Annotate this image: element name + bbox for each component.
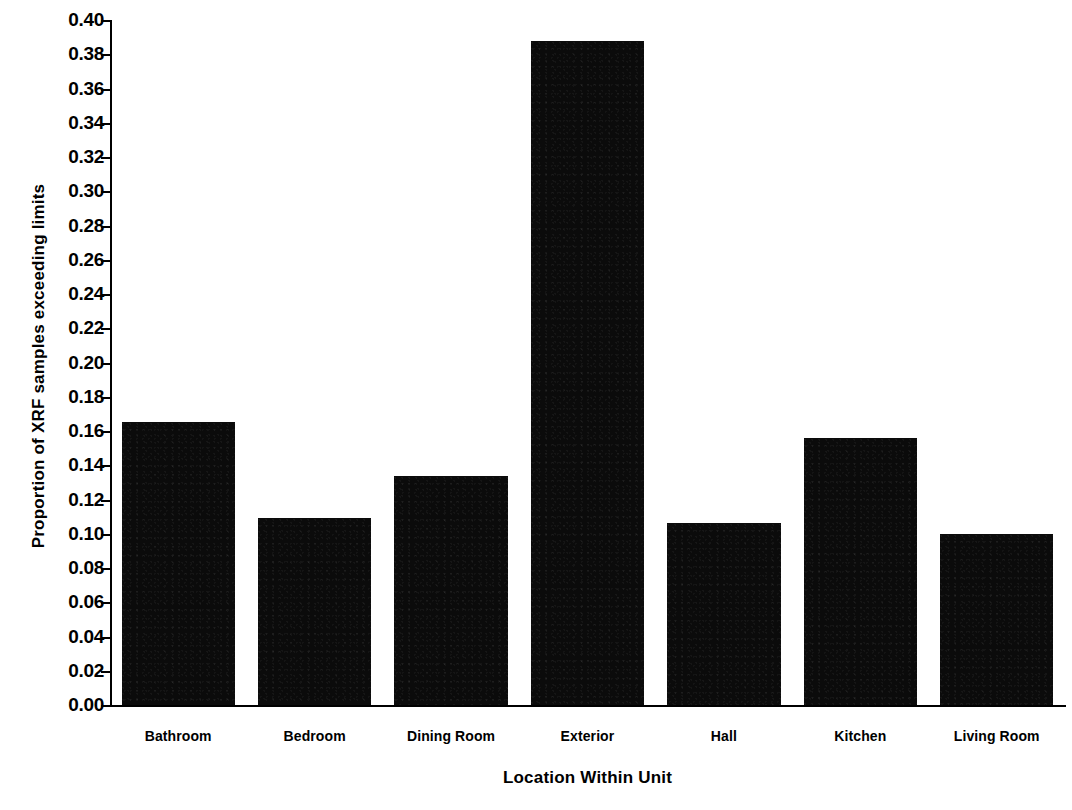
bar-slot [110,20,246,705]
bar [667,523,780,705]
x-axis-tick-label: Bedroom [246,728,382,754]
y-axis-tick-label: 0.20 [68,352,104,374]
bar-slot [246,20,382,705]
y-axis-tick-label: 0.36 [68,78,104,100]
plot-area: 0.400.380.360.340.320.300.280.260.240.22… [110,20,1065,705]
bar-slot [656,20,792,705]
y-axis-tick-label: 0.18 [68,386,104,408]
y-axis-title: Proportion of XRF samples exceeding limi… [22,6,56,726]
bar-series [110,20,1065,705]
x-axis-tick-label: Kitchen [792,728,928,754]
y-axis-tick-label: 0.30 [68,180,104,202]
x-axis-tick-label: Bathroom [110,728,246,754]
bar-slot [929,20,1065,705]
y-axis-tick-label: 0.06 [68,591,104,613]
y-axis-tick-label: 0.28 [68,215,104,237]
x-axis-tick-labels: BathroomBedroomDining RoomExteriorHallKi… [110,728,1065,754]
y-axis-tick-label: 0.32 [68,146,104,168]
x-axis-tick-label: Living Room [929,728,1065,754]
y-axis-tick-label: 0.04 [68,626,104,648]
bar [394,476,507,705]
x-axis-tick-label: Exterior [519,728,655,754]
y-axis-tick-label: 0.40 [68,9,104,31]
bar-slot [519,20,655,705]
y-axis-tick-label: 0.22 [68,317,104,339]
y-axis-tick-label: 0.26 [68,249,104,271]
y-axis-tick-label: 0.10 [68,523,104,545]
y-axis-tick-label: 0.38 [68,43,104,65]
bar [940,534,1053,705]
x-axis-tick-label: Dining Room [383,728,519,754]
x-axis-tick-label: Hall [656,728,792,754]
bar [258,518,371,705]
x-axis-line [110,705,1066,707]
bar-chart: Proportion of XRF samples exceeding limi… [0,0,1072,810]
y-axis-tick-label: 0.34 [68,112,104,134]
bar [804,438,917,705]
bar [122,422,235,705]
bar [531,41,644,705]
y-axis-tick-label: 0.00 [68,694,104,716]
y-axis-tick-label: 0.02 [68,660,104,682]
y-axis-tick-label: 0.14 [68,454,104,476]
y-axis-tick-label: 0.16 [68,420,104,442]
y-axis-tick-label: 0.24 [68,283,104,305]
bar-slot [383,20,519,705]
x-axis-title: Location Within Unit [110,768,1065,788]
y-axis-tick-label: 0.12 [68,489,104,511]
bar-slot [792,20,928,705]
y-axis-tick-label: 0.08 [68,557,104,579]
